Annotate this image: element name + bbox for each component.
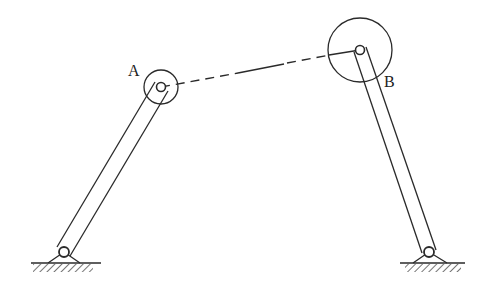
left-ground-support	[31, 247, 101, 272]
joint-a	[144, 70, 178, 104]
joint-b-pin	[356, 46, 365, 55]
linkage-diagram: A B	[0, 0, 488, 298]
joint-b	[328, 18, 392, 82]
right-ground-support	[400, 247, 465, 272]
joint-a-pin	[157, 83, 166, 92]
label-a: A	[128, 62, 140, 79]
left-ground-pivot	[59, 247, 69, 257]
coupler-link-dashed	[161, 50, 360, 87]
label-b: B	[384, 73, 395, 90]
left-crank-link	[57, 82, 168, 256]
right-ground-pivot	[424, 247, 434, 257]
right-ground-hatch	[405, 264, 461, 272]
right-rocker-link	[354, 47, 436, 253]
left-ground-hatch	[33, 264, 93, 272]
